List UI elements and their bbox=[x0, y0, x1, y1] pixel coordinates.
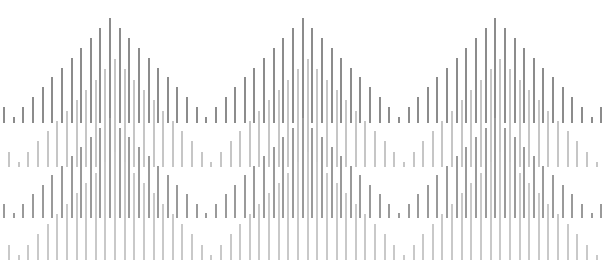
bar bbox=[528, 90, 530, 167]
bar bbox=[586, 152, 588, 167]
bar bbox=[576, 234, 578, 260]
bar bbox=[321, 38, 323, 123]
bar bbox=[273, 48, 275, 123]
bar bbox=[504, 28, 506, 123]
bar bbox=[562, 87, 564, 123]
bar bbox=[71, 58, 73, 123]
bar bbox=[528, 183, 530, 260]
bar bbox=[311, 128, 313, 219]
bar bbox=[225, 194, 227, 218]
bar bbox=[364, 214, 366, 260]
bar bbox=[422, 234, 424, 260]
bar bbox=[475, 38, 477, 123]
bar bbox=[76, 100, 78, 167]
bar bbox=[47, 224, 49, 260]
bar-pattern-canvas bbox=[0, 0, 606, 272]
bar bbox=[514, 38, 516, 123]
bar bbox=[509, 69, 511, 167]
bar bbox=[557, 214, 559, 260]
bar bbox=[326, 80, 328, 167]
bar bbox=[176, 185, 178, 219]
bar bbox=[494, 18, 496, 123]
bar bbox=[384, 234, 386, 260]
bar bbox=[567, 224, 569, 260]
bar bbox=[350, 166, 352, 219]
bar bbox=[307, 59, 309, 167]
bar bbox=[408, 107, 410, 123]
bar bbox=[114, 59, 116, 167]
bar bbox=[427, 185, 429, 219]
bar bbox=[167, 175, 169, 218]
bar bbox=[181, 224, 183, 260]
bar bbox=[369, 87, 371, 123]
bar bbox=[374, 131, 376, 167]
bar bbox=[326, 173, 328, 260]
bar bbox=[297, 162, 299, 260]
bar bbox=[490, 69, 492, 167]
bar bbox=[465, 48, 467, 123]
bar bbox=[249, 121, 251, 167]
bar bbox=[384, 141, 386, 167]
bar bbox=[403, 162, 405, 167]
bar bbox=[51, 175, 53, 218]
bar bbox=[581, 107, 583, 123]
bar bbox=[475, 137, 477, 218]
bar bbox=[253, 68, 255, 124]
bar bbox=[432, 131, 434, 167]
bar bbox=[413, 152, 415, 167]
bar bbox=[504, 128, 506, 219]
bar bbox=[210, 255, 212, 260]
bar bbox=[446, 166, 448, 219]
bar bbox=[153, 100, 155, 167]
bar bbox=[172, 214, 174, 260]
bar bbox=[417, 194, 419, 218]
bar bbox=[3, 107, 5, 123]
bar bbox=[268, 193, 270, 260]
bar bbox=[191, 234, 193, 260]
bar bbox=[56, 214, 58, 260]
bar bbox=[76, 193, 78, 260]
bar bbox=[104, 69, 106, 167]
bar bbox=[186, 194, 188, 218]
bar bbox=[321, 137, 323, 218]
bar bbox=[591, 213, 593, 218]
bar bbox=[66, 204, 68, 261]
bar bbox=[287, 173, 289, 260]
bar bbox=[133, 173, 135, 260]
bar bbox=[451, 111, 453, 168]
bar bbox=[90, 137, 92, 218]
bar bbox=[350, 68, 352, 124]
bar bbox=[153, 193, 155, 260]
bar bbox=[172, 121, 174, 167]
bar bbox=[239, 131, 241, 167]
bar bbox=[13, 213, 15, 218]
bar bbox=[85, 183, 87, 260]
bar bbox=[600, 204, 602, 219]
bar bbox=[441, 214, 443, 260]
bar bbox=[345, 193, 347, 260]
bar bbox=[436, 77, 438, 123]
bar bbox=[258, 204, 260, 261]
bar bbox=[253, 166, 255, 219]
bar bbox=[258, 111, 260, 168]
bar bbox=[162, 204, 164, 261]
bar bbox=[393, 152, 395, 167]
bar bbox=[461, 100, 463, 167]
bar bbox=[307, 152, 309, 260]
bar bbox=[432, 224, 434, 260]
bar bbox=[494, 118, 496, 218]
bar bbox=[533, 58, 535, 123]
bar bbox=[133, 80, 135, 167]
bar bbox=[61, 166, 63, 219]
bar bbox=[465, 147, 467, 219]
bar bbox=[282, 137, 284, 218]
bar bbox=[355, 204, 357, 261]
bar bbox=[80, 48, 82, 123]
bar bbox=[71, 156, 73, 218]
bar bbox=[263, 156, 265, 218]
bar bbox=[85, 90, 87, 167]
bar bbox=[56, 121, 58, 167]
bar bbox=[124, 69, 126, 167]
bar bbox=[533, 156, 535, 218]
bar bbox=[104, 162, 106, 260]
